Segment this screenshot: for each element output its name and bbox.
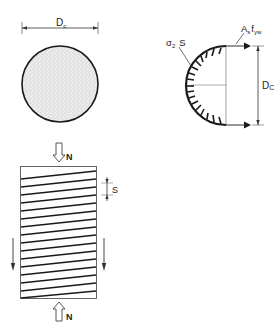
- load-label-top: N: [66, 152, 73, 162]
- hoop-tension-arrows: [226, 43, 251, 129]
- cross-section: Dc: [22, 17, 98, 122]
- arrowhead-icon: [93, 26, 98, 29]
- arrowhead-icon: [105, 195, 108, 199]
- confining-pressure-arrows: [187, 48, 221, 124]
- diameter-label: Dc: [56, 17, 66, 29]
- spacing-label: S: [112, 185, 118, 195]
- arrow-up-icon: [53, 302, 65, 321]
- diameter-dimension: Dc: [22, 17, 98, 34]
- arrow-down-icon: [11, 263, 15, 271]
- bottom-load-arrow: N: [53, 302, 73, 322]
- free-body-half-section: Asfyw σ2S DC: [166, 23, 274, 129]
- arrowhead-icon: [256, 120, 259, 125]
- spacing-dimension: S: [101, 177, 118, 201]
- arrow-right-icon: [244, 43, 251, 50]
- concrete-circle: [22, 46, 98, 122]
- arrowhead-icon: [22, 26, 27, 29]
- top-load-arrow: N: [53, 143, 73, 162]
- arrowhead-icon: [256, 46, 259, 51]
- diameter-label: DC: [262, 80, 274, 91]
- arrow-down-icon: [102, 263, 106, 271]
- force-label: Asfyw: [241, 23, 262, 35]
- load-label-bottom: N: [66, 312, 73, 322]
- column-elevation: N S: [11, 143, 118, 322]
- arrow-down-icon: [53, 143, 65, 162]
- arrow-right-icon: [244, 122, 251, 129]
- dc-dimension: DC: [252, 46, 274, 125]
- confinement-diagram: Dc: [0, 0, 280, 331]
- arrowhead-icon: [105, 179, 108, 183]
- stress-label: σ2S: [166, 37, 186, 49]
